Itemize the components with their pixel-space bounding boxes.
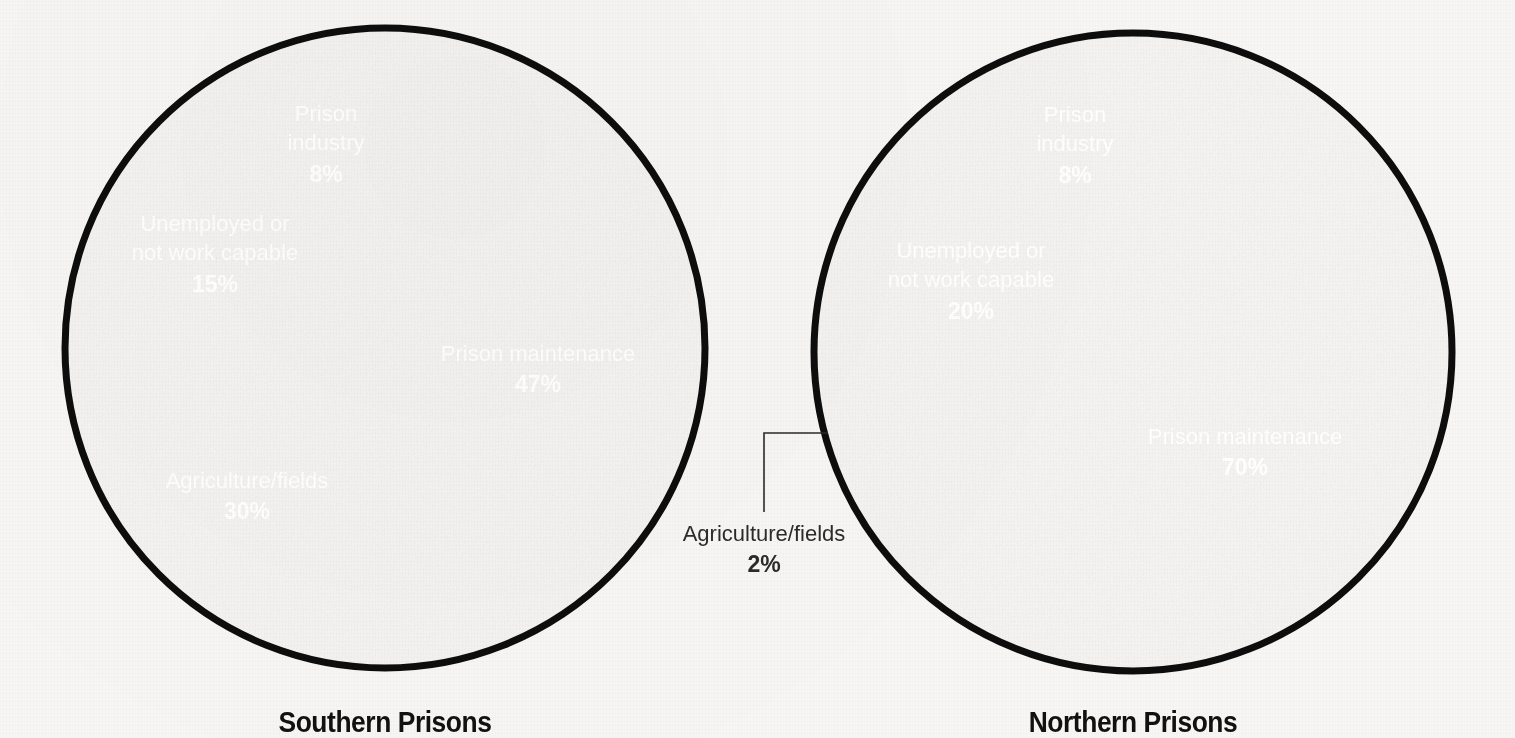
pie-chart-figure: Prison maintenance 47%Agriculture/fields…	[0, 0, 1515, 738]
slice-label-text: Unemployed or	[140, 211, 289, 236]
chart-title-northern-prisons: Northern Prisons	[1029, 704, 1238, 738]
slice-label-text: Prison maintenance	[1148, 424, 1342, 449]
slice-percent-text: 8%	[309, 161, 342, 187]
slice-label-text: not work capable	[132, 240, 298, 265]
slice-percent-text: 20%	[948, 298, 994, 324]
chart-title-southern-prisons: Southern Prisons	[279, 704, 492, 738]
slice-label-text: Prison	[1044, 102, 1106, 127]
leader-line	[764, 433, 828, 512]
slice-label-text: industry	[1036, 131, 1113, 156]
slice-percent-text: 30%	[224, 498, 270, 524]
slice-label-text: industry	[287, 130, 364, 155]
slice-percent-text: 15%	[192, 271, 238, 297]
charts-root: Prison maintenance 47%Agriculture/fields…	[65, 28, 1452, 738]
slice-percent-text: 2%	[747, 551, 780, 577]
pie-chart-southern-prisons: Prison maintenance 47%Agriculture/fields…	[65, 28, 705, 668]
pie-chart-northern-prisons: Prison maintenance 70%Agriculture/fields…	[683, 33, 1452, 671]
slice-percent-text: 70%	[1222, 454, 1268, 480]
charts-canvas: Prison maintenance 47%Agriculture/fields…	[0, 0, 1515, 738]
slice-label-text: Agriculture/fields	[166, 468, 329, 493]
slice-label-text: Prison maintenance	[441, 341, 635, 366]
slice-label-agriculture-fields: Agriculture/fields2%	[683, 433, 846, 577]
slice-label-text: Prison	[295, 101, 357, 126]
slice-percent-text: 47%	[515, 371, 561, 397]
slice-label-text: Agriculture/fields	[683, 521, 846, 546]
slice-label-text: Unemployed or	[896, 238, 1045, 263]
slice-label-text: not work capable	[888, 267, 1054, 292]
slice-percent-text: 8%	[1058, 162, 1091, 188]
